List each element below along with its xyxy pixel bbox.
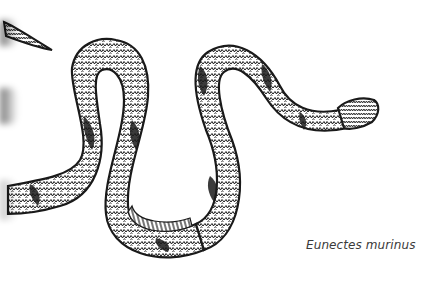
left-edge-shadow-top [0,20,18,46]
snake-illustration-canvas: Eunectes murinus [0,0,437,281]
snake-head [338,98,378,128]
snake-body-right [196,46,348,250]
left-edge-shadow-bottom [0,180,18,220]
left-edge-shadow-mid [0,88,18,124]
species-caption: Eunectes murinus [306,238,416,252]
